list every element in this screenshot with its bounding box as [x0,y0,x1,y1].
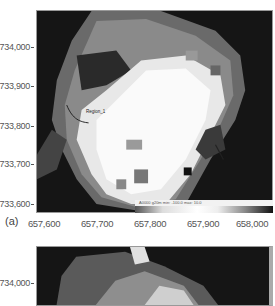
colorbar: A0000 g20m min: -100.0 max: 10.0 [135,200,273,213]
y-tick-label: 5,734,000 [0,278,34,288]
x-tick-label: 657,800 [134,218,166,229]
x-tick-label: 658,000 [236,218,268,229]
y-tick-label: 5,733,700 [0,159,34,169]
panel-label-a: (a) [5,215,18,227]
raster-image [37,247,269,305]
raster-map-panel-a [36,10,273,213]
y-tick-label: 5,734,000 [0,42,34,52]
y-tick-label: 5,733,600 [0,199,34,209]
y-tick-label: 5,733,900 [0,81,34,91]
raster-map-panel-b [36,246,273,306]
colorbar-gradient [135,206,273,213]
region-label: Region_1 [86,109,105,114]
raster-image [37,11,272,212]
x-tick-label: 657,900 [187,218,219,229]
x-tick-label: 657,600 [28,218,60,229]
y-tick-label: 5,733,800 [0,121,34,131]
x-tick-label: 657,700 [81,218,113,229]
